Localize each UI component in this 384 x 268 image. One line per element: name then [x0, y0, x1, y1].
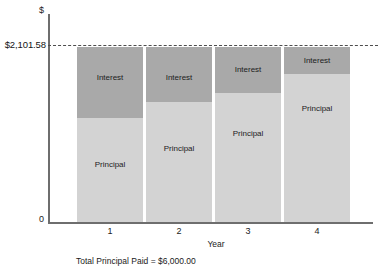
segment-label-interest: Interest	[97, 73, 124, 82]
x-tick-label-4: 4	[302, 226, 332, 237]
stacked-bar-year-3[interactable]: Interest Principal	[215, 47, 281, 222]
amortization-stacked-bar-chart: $ 0 $2,101.58 Interest Principal Interes…	[0, 0, 384, 268]
y-axis-reference-value-label: $2,101.58	[0, 39, 46, 50]
segment-label-interest: Interest	[235, 65, 262, 74]
bar-segment-interest-year-2: Interest	[146, 47, 212, 102]
x-axis-line	[48, 222, 373, 224]
bar-segment-principal-year-1: Principal	[77, 118, 143, 222]
segment-label-principal: Principal	[95, 160, 126, 169]
bar-segment-interest-year-1: Interest	[77, 47, 143, 118]
segment-label-principal: Principal	[164, 144, 195, 153]
bar-segment-principal-year-3: Principal	[215, 93, 281, 222]
x-tick-label-1: 1	[95, 226, 125, 237]
segment-label-interest: Interest	[166, 73, 193, 82]
x-tick-label-3: 3	[233, 226, 263, 237]
plot-area: Interest Principal Interest Principal In…	[48, 14, 378, 222]
bar-segment-principal-year-2: Principal	[146, 102, 212, 222]
stacked-bar-year-4[interactable]: Interest Principal	[284, 47, 350, 222]
x-axis-title: Year	[186, 239, 246, 249]
y-axis-zero-tick-label: 0	[26, 214, 44, 224]
segment-label-principal: Principal	[302, 104, 333, 113]
total-principal-paid-note: Total Principal Paid = $6,000.00	[76, 256, 196, 266]
bar-segment-interest-year-3: Interest	[215, 47, 281, 93]
x-tick-label-2: 2	[164, 226, 194, 237]
y-axis-currency-symbol: $	[30, 5, 44, 15]
bar-segment-interest-year-4: Interest	[284, 47, 350, 74]
segment-label-principal: Principal	[233, 129, 264, 138]
stacked-bar-year-1[interactable]: Interest Principal	[77, 47, 143, 222]
stacked-bar-year-2[interactable]: Interest Principal	[146, 47, 212, 222]
bar-segment-principal-year-4: Principal	[284, 74, 350, 222]
segment-label-interest: Interest	[304, 56, 331, 65]
